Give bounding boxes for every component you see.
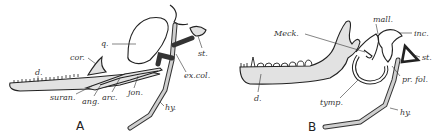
teeth-b: [241, 57, 312, 67]
label-ang-a: ang.: [82, 97, 100, 106]
diagram-svg: q. cor. d. st. ex.col. jon. arc. ang. su…: [0, 0, 442, 138]
label-excol-a: ex.col.: [184, 71, 210, 80]
label-d-a: d.: [35, 68, 43, 77]
label-prfol-b: pr. fol.: [402, 75, 428, 84]
label-hy-b: hy.: [400, 108, 411, 117]
label-mall-b: mall.: [373, 15, 393, 24]
stapes-footplate-a: [190, 26, 206, 36]
leader-cor-a: [88, 58, 96, 64]
stapes-b: [402, 46, 418, 62]
label-q-a: q.: [101, 39, 109, 48]
label-hy-a: hy.: [165, 103, 176, 112]
leader-hy-a: [160, 102, 164, 106]
leader-st-a: [198, 36, 202, 48]
tympanic-ring-b-inner: [354, 56, 386, 83]
jaw-evolution-diagram: q. cor. d. st. ex.col. jon. arc. ang. su…: [0, 0, 442, 138]
label-arc-a: arc.: [102, 93, 118, 102]
leader-mall-b: [376, 24, 378, 34]
label-jon-a: jon.: [126, 88, 143, 97]
panel-b: Meck. mall. inc. st. pr. fol. d. tymp. h…: [240, 15, 432, 134]
stapes-shaft-a: [174, 38, 192, 45]
label-suran-a: suran.: [50, 93, 76, 102]
incus-b: [378, 30, 402, 62]
malleus-b: [356, 34, 379, 60]
leader-excol-a: [176, 54, 186, 72]
leader-tymp-b: [340, 80, 358, 98]
label-st-a: st.: [198, 49, 208, 58]
dentary-bone-b: [240, 21, 360, 84]
label-inc-b: inc.: [414, 29, 429, 38]
label-d-b: d.: [254, 94, 262, 103]
panel-a: q. cor. d. st. ex.col. jon. arc. ang. su…: [10, 5, 210, 133]
panel-label-b: B: [308, 120, 316, 134]
malleus-handle-b: [364, 50, 372, 58]
label-tymp-b: tymp.: [320, 98, 343, 107]
skull-curve-a: [170, 5, 188, 25]
label-st-b: st.: [422, 53, 432, 62]
panel-label-a: A: [76, 119, 85, 133]
label-meck-b: Meck.: [273, 29, 299, 38]
leader-hy-b: [390, 108, 398, 110]
label-cor-a: cor.: [70, 53, 85, 62]
